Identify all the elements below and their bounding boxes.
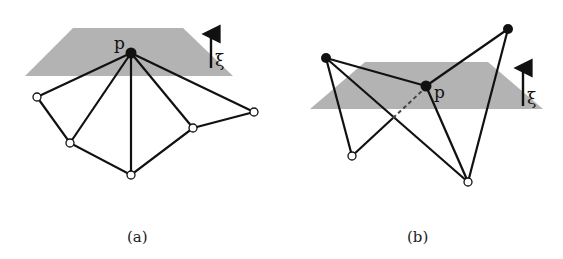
point-label-a: p	[114, 33, 125, 53]
black-nodes-b	[321, 24, 513, 63]
caption-b: (b)	[407, 228, 428, 246]
neighbour-nodes-a	[33, 93, 258, 179]
caption-a: (a)	[127, 228, 148, 246]
point-p-a	[126, 48, 137, 59]
diagram-canvas: p ξ (a) p ξ (b)	[0, 0, 563, 259]
normal-label-b: ξ	[527, 88, 536, 108]
panel-a: p ξ (a)	[25, 28, 258, 246]
point-p-b	[421, 81, 432, 92]
normal-label-a: ξ	[215, 50, 224, 70]
point-label-b: p	[434, 82, 445, 102]
panel-b: p ξ (b)	[310, 24, 543, 246]
